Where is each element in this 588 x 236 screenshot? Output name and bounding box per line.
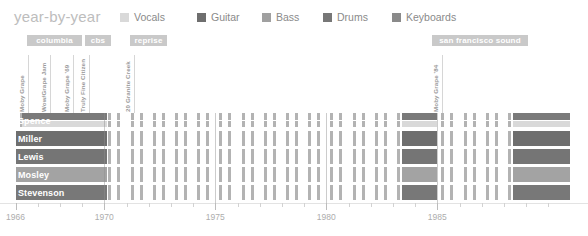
year-stripe [131,121,134,128]
timeline-row[interactable] [0,167,588,182]
year-stripe [362,113,365,120]
legend-item-vocals[interactable]: Vocals [120,10,165,24]
legend-swatch-icon [392,13,401,22]
year-stripe [362,185,365,200]
year-stripe [184,131,187,146]
year-stripe [450,131,453,146]
year-stripe [450,167,453,182]
year-stripe [131,149,134,164]
year-stripe [219,131,222,146]
year-stripe [108,149,111,164]
axis-tick [215,203,216,210]
axis-tick-label: 1970 [95,212,114,222]
year-stripe [486,121,489,128]
axis-tick [60,203,61,207]
record-label-tag[interactable]: reprise [130,35,167,46]
axis-tick [260,203,261,207]
year-stripe [251,131,254,146]
year-stripe [197,131,200,146]
year-stripe [153,121,156,128]
gridline [104,113,105,203]
year-stripe [450,113,453,120]
year-stripe [131,185,134,200]
year-stripe [108,131,111,146]
year-stripe [441,121,444,128]
year-stripe [339,121,342,128]
activity-block [402,113,438,120]
year-stripe [219,167,222,182]
legend-item-guitar[interactable]: Guitar [197,10,240,24]
year-stripe [317,149,320,164]
album-title: 20 Granite Creek [124,61,131,112]
year-stripe [286,167,289,182]
year-stripe [330,121,333,128]
year-stripe [153,167,156,182]
year-stripe [308,185,311,200]
year-stripe [108,167,111,182]
year-stripe [264,167,267,182]
year-stripe [251,121,254,128]
year-stripe [251,113,254,120]
legend-item-drums[interactable]: Drums [323,10,368,24]
year-stripe [464,121,467,128]
timeline-subrow [0,113,588,120]
axis-tick [393,203,394,207]
year-stripe [219,149,222,164]
year-stripe [264,131,267,146]
year-stripe [362,131,365,146]
year-stripe [495,167,498,182]
album-title: Moby Grape [18,75,25,112]
timeline-subrow [0,185,588,200]
year-stripe [153,185,156,200]
year-stripe [286,149,289,164]
year-stripe [264,185,267,200]
year-stripe [441,185,444,200]
record-label-tag[interactable]: columbia [27,35,82,46]
legend-swatch-icon [197,13,206,22]
year-stripe [175,167,178,182]
axis-tick [504,203,505,207]
year-stripe [473,131,476,146]
axis-tick [371,203,372,207]
year-stripe [219,185,222,200]
legend-swatch-icon [323,13,332,22]
year-stripe [228,121,231,128]
activity-block [513,121,571,128]
year-stripe [228,113,231,120]
activity-block [16,149,107,164]
year-stripe [197,113,200,120]
year-stripe [362,149,365,164]
year-stripe [153,113,156,120]
timeline-row[interactable] [0,185,588,200]
axis-tick-label: 1975 [206,212,225,222]
axis-tick [171,203,172,207]
record-label-tag[interactable]: cbs [85,35,111,46]
legend-item-bass[interactable]: Bass [262,10,299,24]
year-stripe [508,167,511,182]
axis-tick [482,203,483,207]
year-stripe [317,131,320,146]
year-stripe [308,167,311,182]
axis-line [0,203,588,204]
year-stripe [384,131,387,146]
legend-item-keyboards[interactable]: Keyboards [392,10,456,24]
year-stripe [295,113,298,120]
year-stripe [450,149,453,164]
timeline-row[interactable] [0,131,588,146]
album-leader-line [89,55,90,113]
album-title: Moby Grape '84 [432,65,439,112]
year-stripe [397,121,400,128]
record-label-tag[interactable]: san francisco sound [432,35,528,46]
timeline-row[interactable] [0,149,588,164]
year-stripe [108,185,111,200]
axis-tick [82,203,83,207]
legend-label: Keyboards [406,10,456,24]
year-stripe [184,121,187,128]
legend-label: Vocals [134,10,165,24]
year-stripe [473,149,476,164]
year-stripe [317,167,320,182]
timeline-row[interactable] [0,113,588,128]
year-stripe [508,185,511,200]
year-stripe [153,149,156,164]
year-stripe [464,185,467,200]
